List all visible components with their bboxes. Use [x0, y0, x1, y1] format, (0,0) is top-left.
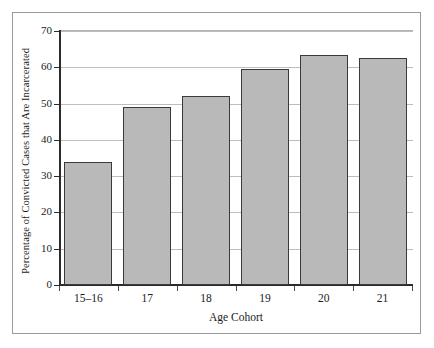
x-axis-tick-label: 18	[177, 292, 236, 304]
x-axis-tick	[59, 286, 60, 291]
x-axis-tick-label: 21	[353, 292, 412, 304]
bar	[64, 162, 112, 285]
bar	[359, 58, 407, 285]
gridline	[59, 31, 413, 32]
y-axis-tick-label: 60	[4, 61, 52, 72]
y-axis-line	[59, 30, 61, 286]
x-axis-tick	[353, 286, 354, 291]
y-axis-tick-label: 20	[4, 206, 52, 217]
x-axis-title: Age Cohort	[59, 311, 413, 323]
y-axis-tick-label: 40	[4, 134, 52, 145]
x-axis-tick-label: 15–16	[59, 292, 118, 304]
y-axis-tick-label: 0	[4, 279, 52, 290]
x-axis-tick	[236, 286, 237, 291]
x-axis-tick-label: 17	[118, 292, 177, 304]
bar	[123, 107, 171, 285]
x-axis-tick	[294, 286, 295, 291]
bar	[300, 55, 348, 285]
x-axis-tick-label: 19	[236, 292, 295, 304]
bar	[182, 96, 230, 285]
x-axis-tick	[118, 286, 119, 291]
y-axis-tick-label: 30	[4, 170, 52, 181]
plot-top-rule	[59, 30, 413, 31]
y-axis-tick-labels: 010203040506070	[0, 0, 52, 348]
y-axis-tick-label: 70	[4, 25, 52, 36]
bar	[241, 69, 289, 285]
x-axis-tick	[177, 286, 178, 291]
x-axis-tick	[412, 286, 413, 291]
x-axis-tick-label: 20	[294, 292, 353, 304]
y-axis-tick-label: 50	[4, 98, 52, 109]
y-axis-tick-label: 10	[4, 243, 52, 254]
